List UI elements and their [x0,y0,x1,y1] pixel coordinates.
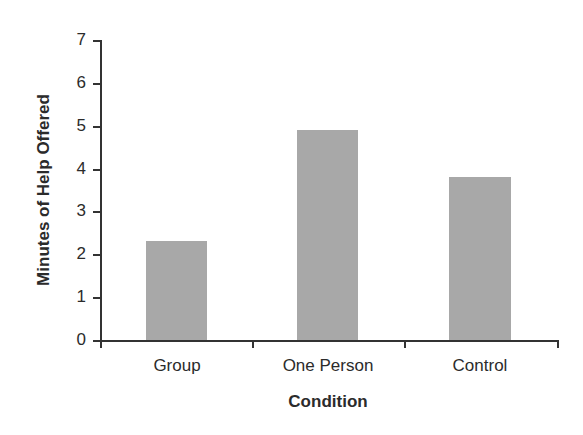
y-tick-2 [93,254,100,256]
y-tick-3 [93,211,100,213]
y-tick-1 [93,297,100,299]
x-tick-label-one-person: One Person [253,356,403,376]
y-tick-label: 2 [56,245,86,263]
y-tick-label: 0 [56,331,86,349]
y-tick-7 [93,40,100,42]
x-axis-line [93,340,559,342]
bar-control [449,177,511,340]
y-tick-label: 1 [56,288,86,306]
y-axis-line [100,40,102,348]
bar-chart: 7 6 5 4 3 2 1 0 Group One Person Control… [0,0,583,435]
x-tick-1 [252,340,254,348]
x-axis-title: Condition [253,392,403,412]
x-tick-label-control: Control [405,356,555,376]
y-tick-label: 5 [56,117,86,135]
y-tick-label: 3 [56,202,86,220]
y-tick-label: 6 [56,74,86,92]
x-tick-3 [557,340,559,348]
bar-one-person [297,130,358,340]
y-tick-5 [93,126,100,128]
x-tick-label-group: Group [102,356,252,376]
y-tick-6 [93,83,100,85]
y-tick-4 [93,169,100,171]
y-tick-label: 4 [56,160,86,178]
x-tick-2 [404,340,406,348]
y-axis-title: Minutes of Help Offered [34,60,54,320]
y-tick-label: 7 [56,31,86,49]
bar-group [146,241,207,340]
